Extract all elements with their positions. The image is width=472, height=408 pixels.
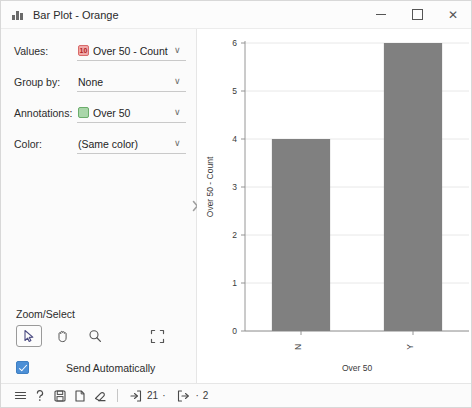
help-icon[interactable] bbox=[30, 387, 50, 405]
y-tick-label: 4 bbox=[232, 134, 237, 144]
output-arrow-icon bbox=[173, 387, 193, 405]
status-separator bbox=[117, 389, 118, 402]
clear-icon[interactable] bbox=[90, 387, 110, 405]
numeric-variable-icon: 10 bbox=[78, 45, 89, 56]
y-tick-label: 3 bbox=[232, 182, 237, 192]
output-count: 2 bbox=[203, 390, 209, 401]
send-automatically-label: Send Automatically bbox=[66, 362, 155, 374]
settings-group: Values: 10 Over 50 - Count ∨ Group by: N… bbox=[1, 29, 196, 163]
send-automatically-checkbox[interactable] bbox=[16, 361, 29, 374]
x-tick-label: Y bbox=[405, 344, 415, 350]
chevron-down-icon: ∨ bbox=[174, 108, 184, 117]
title-bar: Bar Plot - Orange ✕ bbox=[1, 1, 471, 29]
color-label: Color: bbox=[14, 138, 77, 150]
y-tick-label: 1 bbox=[232, 278, 237, 288]
color-combobox[interactable]: (Same color) ∨ bbox=[77, 134, 186, 154]
report-icon[interactable] bbox=[70, 387, 90, 405]
window-body: Values: 10 Over 50 - Count ∨ Group by: N… bbox=[1, 29, 471, 383]
chevron-down-icon: ∨ bbox=[174, 46, 184, 55]
input-arrow-icon bbox=[125, 387, 145, 405]
window-title: Bar Plot - Orange bbox=[33, 9, 119, 21]
pan-hand-tool[interactable] bbox=[49, 325, 75, 347]
chevron-down-icon: ∨ bbox=[174, 139, 184, 148]
bar[interactable] bbox=[384, 43, 442, 331]
send-automatically-row[interactable]: Send Automatically bbox=[1, 361, 196, 374]
bar[interactable] bbox=[272, 139, 330, 331]
close-button[interactable]: ✕ bbox=[435, 1, 471, 29]
group-by-row: Group by: None ∨ bbox=[14, 70, 186, 94]
bar-plot-svg: 0123456NYOver 50Over 50 - Count bbox=[197, 29, 472, 385]
y-tick-label: 6 bbox=[232, 38, 237, 48]
menu-icon[interactable] bbox=[10, 387, 30, 405]
x-tick-label: N bbox=[293, 344, 303, 350]
minimize-button[interactable] bbox=[363, 1, 399, 29]
annotations-value: Over 50 bbox=[93, 107, 170, 119]
select-arrow-tool[interactable] bbox=[16, 325, 42, 347]
values-value: Over 50 - Count bbox=[93, 45, 170, 57]
group-by-value: None bbox=[78, 76, 170, 88]
maximize-button[interactable] bbox=[399, 1, 435, 29]
group-by-label: Group by: bbox=[14, 76, 77, 88]
window-controls: ✕ bbox=[363, 1, 471, 29]
values-row: Values: 10 Over 50 - Count ∨ bbox=[14, 39, 186, 63]
input-dot: · bbox=[162, 390, 165, 401]
annotations-row: Annotations: Over 50 ∨ bbox=[14, 101, 186, 125]
chevron-down-icon: ∨ bbox=[174, 77, 184, 86]
zoom-select-title: Zoom/Select bbox=[16, 308, 186, 320]
x-axis-title: Over 50 bbox=[342, 363, 373, 373]
categorical-variable-icon bbox=[78, 107, 89, 118]
y-tick-label: 0 bbox=[232, 326, 237, 336]
control-panel: Values: 10 Over 50 - Count ∨ Group by: N… bbox=[1, 29, 197, 383]
y-axis-title: Over 50 - Count bbox=[205, 156, 215, 217]
status-bar: 21 · · 2 bbox=[1, 383, 471, 407]
save-icon[interactable] bbox=[50, 387, 70, 405]
input-count: 21 bbox=[147, 390, 158, 401]
annotations-label: Annotations: bbox=[14, 107, 77, 119]
values-combobox[interactable]: 10 Over 50 - Count ∨ bbox=[77, 41, 186, 61]
color-row: Color: (Same color) ∨ bbox=[14, 132, 186, 156]
group-by-combobox[interactable]: None ∨ bbox=[77, 72, 186, 92]
annotations-combobox[interactable]: Over 50 ∨ bbox=[77, 103, 186, 123]
reset-zoom-tool[interactable] bbox=[144, 325, 170, 347]
plot-panel[interactable]: 0123456NYOver 50Over 50 - Count bbox=[197, 29, 471, 383]
color-value: (Same color) bbox=[78, 138, 170, 150]
zoom-magnifier-tool[interactable] bbox=[82, 325, 108, 347]
zoom-select-toolbar bbox=[16, 325, 186, 347]
bar-plot-canvas[interactable]: 0123456NYOver 50Over 50 - Count bbox=[197, 29, 471, 383]
zoom-select-group: Zoom/Select bbox=[1, 308, 196, 347]
bar-plot-window: Bar Plot - Orange ✕ Values: 10 Over 50 -… bbox=[0, 0, 472, 408]
y-tick-label: 2 bbox=[232, 230, 237, 240]
y-tick-label: 5 bbox=[232, 86, 237, 96]
bar-chart-icon bbox=[12, 9, 25, 20]
output-dot: · bbox=[195, 390, 198, 401]
values-label: Values: bbox=[14, 45, 77, 57]
